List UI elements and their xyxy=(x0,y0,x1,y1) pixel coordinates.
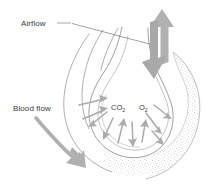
o2-label: O2 xyxy=(139,103,148,112)
o2-subscript: 2 xyxy=(145,107,148,113)
airflow-leader-line xyxy=(57,23,157,46)
co2-subscript: 2 xyxy=(122,107,125,113)
airflow-label: Airflow xyxy=(21,19,46,28)
co2-symbol: CO xyxy=(111,103,122,112)
alveolus-gas-exchange-diagram: Airflow Blood flow CO2 O2 xyxy=(0,0,222,185)
diffusion-arrows-icon xyxy=(79,95,172,147)
co2-label: CO2 xyxy=(111,103,125,112)
blood-flow-label: Blood flow xyxy=(13,104,51,113)
o2-symbol: O xyxy=(139,103,145,112)
blood-flow-arrow-icon xyxy=(36,118,86,168)
